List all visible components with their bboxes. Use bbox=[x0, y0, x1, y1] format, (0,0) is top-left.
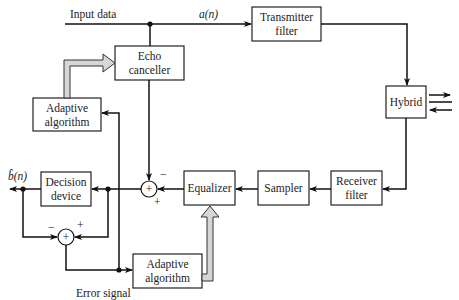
adaptive-algorithm-bottom-block: Adaptive algorithm bbox=[133, 254, 202, 288]
error-signal-line bbox=[66, 245, 132, 270]
hybrid-label: Hybrid bbox=[390, 96, 423, 109]
main-summing-junction: + − + bbox=[141, 168, 167, 208]
echo-canceller-label-1: Echo bbox=[138, 50, 162, 62]
hybrid-to-receiver-line bbox=[383, 118, 406, 189]
fat-arrow-to-equalizer bbox=[201, 206, 219, 281]
transmitter-filter-block: Transmitter filter bbox=[252, 7, 321, 41]
receiver-filter-label-2: filter bbox=[345, 189, 368, 201]
echo-cancellation-block-diagram: Input data a(n) Transmitter filter Hybri… bbox=[0, 0, 459, 300]
input-line bbox=[65, 21, 251, 26]
error-summing-junction: + − + bbox=[48, 219, 84, 245]
summer-minus-sign: − bbox=[160, 168, 167, 180]
error-to-top-adaptive-line bbox=[102, 113, 119, 270]
line-interface-arrows bbox=[429, 95, 452, 110]
adaptive-algorithm-top-block: Adaptive algorithm bbox=[33, 98, 101, 131]
decision-device-label-1: Decision bbox=[46, 176, 87, 188]
adaptive-top-label-2: algorithm bbox=[45, 116, 90, 129]
error-signal-label: Error signal bbox=[76, 287, 131, 300]
svg-text:+: + bbox=[146, 183, 153, 195]
a-n-label: a(n) bbox=[199, 8, 218, 21]
b-hat-n-label: b̂(n) bbox=[8, 169, 27, 183]
decision-device-block: Decision device bbox=[41, 172, 91, 206]
sampler-label: Sampler bbox=[264, 182, 302, 195]
equalizer-label: Equalizer bbox=[187, 182, 231, 195]
adaptive-top-label-1: Adaptive bbox=[46, 102, 88, 115]
adaptive-bottom-label-2: algorithm bbox=[145, 272, 190, 285]
svg-text:+: + bbox=[63, 231, 70, 243]
sampler-block: Sampler bbox=[258, 171, 309, 205]
receiver-filter-label-1: Receiver bbox=[336, 175, 377, 187]
decision-device-label-2: device bbox=[51, 190, 81, 202]
input-data-label: Input data bbox=[70, 8, 116, 21]
echo-canceller-label-2: canceller bbox=[129, 64, 171, 76]
hybrid-block: Hybrid bbox=[386, 86, 426, 118]
error-plus-sign: + bbox=[77, 219, 84, 231]
summer-plus-sign: + bbox=[154, 196, 161, 208]
tx-to-hybrid-line bbox=[321, 24, 407, 85]
echo-canceller-block: Echo canceller bbox=[115, 46, 184, 80]
transmitter-filter-label-1: Transmitter bbox=[260, 11, 313, 23]
equalizer-block: Equalizer bbox=[184, 171, 235, 205]
transmitter-filter-label-2: filter bbox=[275, 25, 298, 37]
error-minus-sign: − bbox=[48, 221, 55, 233]
receiver-filter-block: Receiver filter bbox=[331, 171, 382, 205]
fat-arrow-to-echo-canceller bbox=[64, 54, 115, 98]
adaptive-bottom-label-1: Adaptive bbox=[146, 258, 188, 271]
